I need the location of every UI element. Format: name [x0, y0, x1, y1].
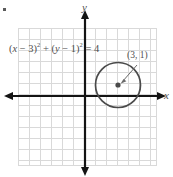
y-axis-label: y [82, 2, 87, 13]
circle-center-point [115, 82, 120, 87]
x-axis-label: x [164, 90, 169, 101]
coordinate-graph-figure: (x − 3)2 + (y − 1)2 = 4 (3, 1) y x [0, 0, 173, 177]
equation-equals-four: = 4 [83, 43, 99, 54]
graph-canvas [0, 0, 173, 177]
equation-minus-three: − 3) [17, 43, 37, 54]
center-point-label: (3, 1) [127, 51, 148, 61]
equation-plus: + ( [40, 43, 55, 54]
equation-minus-one: − 1) [60, 43, 80, 54]
y-axis [81, 10, 89, 176]
circle-equation-label: (x − 3)2 + (y − 1)2 = 4 [9, 42, 99, 54]
